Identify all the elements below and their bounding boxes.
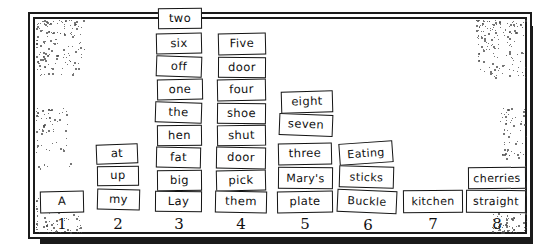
word-card-lay[interactable]: Lay	[155, 191, 202, 212]
word-card-off[interactable]: off	[156, 55, 203, 78]
column-label-5: 5	[290, 215, 320, 233]
word-card-kitchen[interactable]: kitchen	[403, 190, 463, 214]
word-card-hen[interactable]: hen	[157, 125, 202, 147]
column-label-8: 8	[482, 215, 512, 233]
word-card-two[interactable]: two	[158, 8, 202, 29]
word-card-eight[interactable]: eight	[281, 90, 334, 113]
word-card-marys[interactable]: Mary's	[278, 167, 333, 190]
word-card-four[interactable]: four	[217, 79, 266, 102]
word-card-straight[interactable]: straight	[466, 190, 526, 213]
frame-shadow-bottom	[40, 239, 532, 244]
column-label-4: 4	[226, 215, 256, 233]
column-label-2: 2	[103, 215, 133, 233]
word-card-fat[interactable]: fat	[156, 147, 201, 169]
word-card-at[interactable]: at	[96, 143, 139, 165]
word-card-seven[interactable]: seven	[279, 113, 334, 137]
word-card-six[interactable]: six	[156, 32, 202, 54]
column-label-3: 3	[164, 215, 194, 233]
word-card-the[interactable]: the	[155, 101, 203, 123]
word-card-five[interactable]: Five	[218, 32, 267, 55]
word-card-buckle[interactable]: Buckle	[337, 189, 398, 215]
word-card-shut[interactable]: shut	[217, 125, 266, 147]
column-label-1: 1	[47, 215, 77, 233]
word-card-door-1[interactable]: door	[218, 57, 266, 78]
word-card-one[interactable]: one	[157, 79, 203, 101]
column-label-6: 6	[353, 216, 383, 234]
word-card-door-2[interactable]: door	[216, 147, 266, 170]
word-card-sticks[interactable]: sticks	[339, 165, 395, 189]
word-card-big[interactable]: big	[157, 170, 202, 191]
word-card-shoe[interactable]: shoe	[217, 103, 266, 125]
word-card-eating[interactable]: Eating	[338, 140, 393, 166]
word-card-a[interactable]: A	[40, 191, 84, 214]
chart-canvas: A at up my two six off one the hen fat b…	[0, 0, 542, 250]
word-card-pick[interactable]: pick	[216, 169, 266, 191]
word-card-up[interactable]: up	[97, 166, 139, 187]
word-card-three[interactable]: three	[278, 142, 332, 165]
word-card-cherries[interactable]: cherries	[468, 167, 526, 190]
word-card-my[interactable]: my	[97, 188, 141, 210]
word-card-plate[interactable]: plate	[277, 191, 333, 214]
column-label-7: 7	[418, 215, 448, 233]
word-card-them[interactable]: them	[215, 191, 267, 214]
